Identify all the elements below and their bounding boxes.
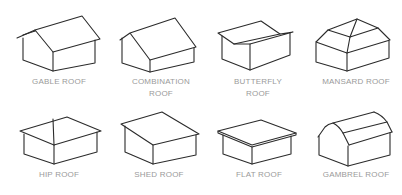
flat-roof-icon — [218, 120, 296, 164]
label-mansard-roof: MANSARD ROOF — [306, 76, 402, 88]
label-line: GAMBREL ROOF — [306, 169, 402, 181]
mansard-roof-icon — [316, 19, 390, 71]
label-butterfly-roof: BUTTERFLY ROOF — [208, 76, 308, 100]
label-line: MANSARD ROOF — [306, 76, 402, 88]
label-hip-roof: HIP ROOF — [9, 169, 109, 181]
label-shed-roof: SHED ROOF — [109, 169, 209, 181]
label-line: GABLE ROOF — [9, 76, 109, 88]
label-line: BUTTERFLY — [208, 76, 308, 88]
gambrel-roof-icon — [318, 112, 392, 166]
label-line: ROOF — [111, 88, 211, 100]
label-line: COMBINATION — [111, 76, 211, 88]
butterfly-roof-icon — [218, 21, 293, 70]
shed-roof-icon — [121, 112, 199, 164]
label-line: FLAT ROOF — [209, 169, 309, 181]
label-combination-roof: COMBINATION ROOF — [111, 76, 211, 100]
gable-roof-icon — [17, 16, 100, 71]
label-gambrel-roof: GAMBREL ROOF — [306, 169, 402, 181]
label-line: SHED ROOF — [109, 169, 209, 181]
label-flat-roof: FLAT ROOF — [209, 169, 309, 181]
label-gable-roof: GABLE ROOF — [9, 76, 109, 88]
label-line: ROOF — [208, 88, 308, 100]
hip-roof-icon — [20, 117, 101, 164]
combination-roof-icon — [120, 18, 196, 72]
label-line: HIP ROOF — [9, 169, 109, 181]
